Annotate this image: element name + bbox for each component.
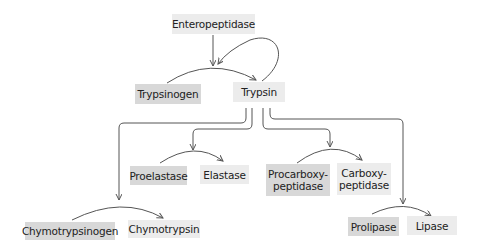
trypsinogen-box: Trypsinogen — [135, 84, 201, 104]
proelastase-box: Proelastase — [130, 166, 187, 185]
lipase-box: Lipase — [407, 216, 457, 235]
trypsin-box: Trypsin — [233, 82, 285, 102]
prolipase-box: Prolipase — [348, 217, 399, 236]
chymotrypsin-box: Chymotrypsin — [128, 220, 200, 238]
procarboxypeptidase-box: Procarboxy- peptidase — [266, 164, 330, 196]
diagram-connectors — [0, 0, 481, 251]
elastase-box: Elastase — [200, 165, 249, 184]
enteropeptidase-box: Enteropeptidase — [172, 14, 255, 34]
chymotrypsinogen-box: Chymotrypsinogen — [25, 222, 115, 240]
carboxypeptidase-box: Carboxy- peptidase — [337, 163, 391, 195]
